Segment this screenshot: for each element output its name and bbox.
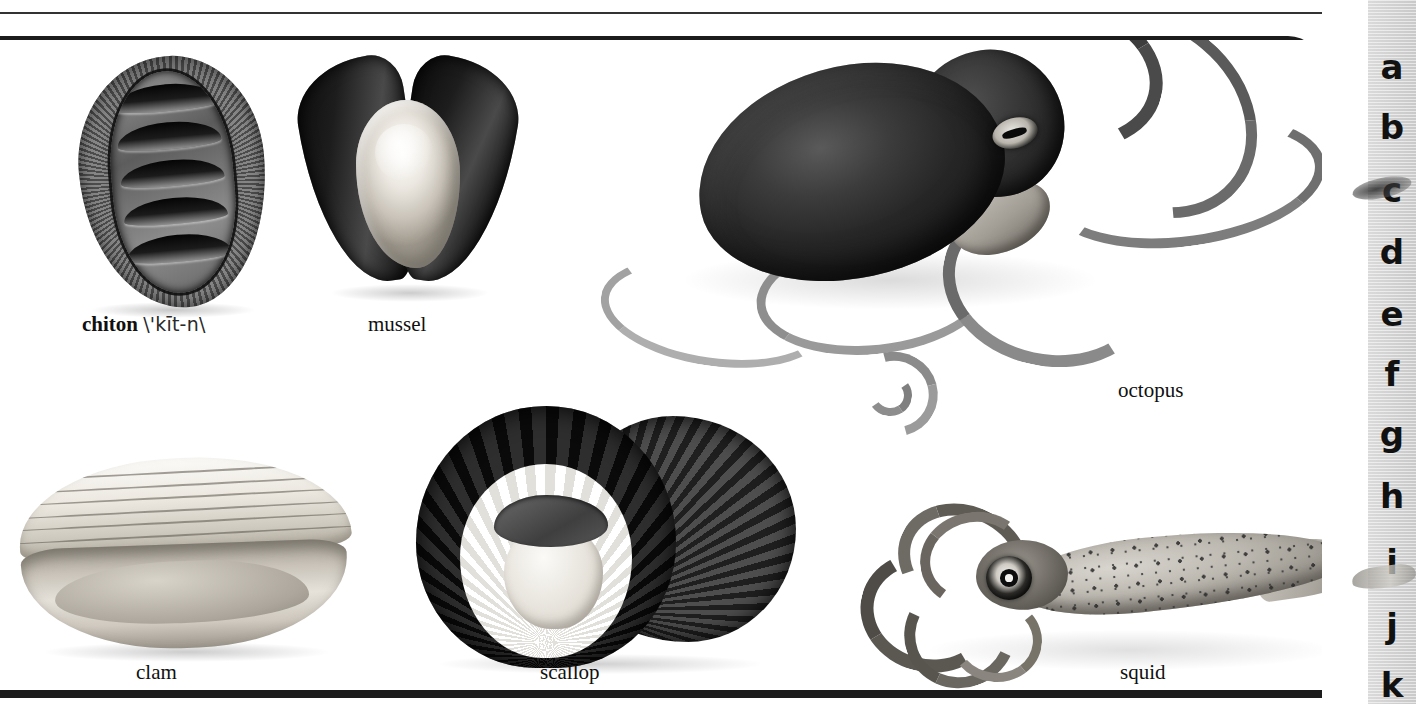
figure-octopus (560, 40, 1322, 452)
figure-squid (800, 510, 1322, 690)
clam-body-meat (53, 556, 309, 627)
clam-lower-valve (20, 538, 349, 653)
octopus-arm-curl (865, 370, 916, 419)
chiton-valve (126, 231, 231, 266)
scallop-lower-valve (416, 406, 676, 668)
bottom-thick-rule (0, 690, 1322, 698)
illustration-plate: chiton \'kīt-n\ mussel octopus (0, 40, 1322, 690)
thumb-index-letter-h[interactable]: h (1368, 479, 1416, 513)
caption-octopus: octopus (1118, 378, 1183, 403)
dictionary-illustration-page: chiton \'kīt-n\ mussel octopus (0, 0, 1416, 704)
figure-chiton (66, 52, 282, 314)
chiton-valve (123, 193, 228, 228)
thumb-index-letter-g[interactable]: g (1368, 417, 1416, 451)
figure-mussel (300, 58, 520, 318)
chiton-valve (120, 155, 225, 190)
caption-scallop: scallop (540, 660, 599, 685)
caption-clam: clam (136, 660, 177, 685)
thumb-index-letter-e[interactable]: e (1368, 297, 1416, 331)
caption-chiton-pronunciation: \'kīt-n\ (143, 313, 205, 335)
chiton-valve (116, 118, 221, 153)
top-thin-rule (0, 12, 1322, 14)
caption-chiton-headword: chiton (82, 312, 138, 336)
caption-squid: squid (1120, 660, 1166, 685)
octopus-arm-curl (837, 336, 953, 452)
octopus-arm (1038, 99, 1322, 265)
chiton-illustration (69, 48, 276, 315)
thumb-index-letter-b[interactable]: b (1368, 110, 1416, 144)
caption-chiton: chiton \'kīt-n\ (82, 312, 206, 337)
thumb-index-letter-a[interactable]: a (1368, 50, 1416, 84)
squid-eye (986, 556, 1032, 600)
thumb-index-letter-f[interactable]: f (1368, 357, 1416, 391)
thumb-index-letter-k[interactable]: k (1368, 668, 1416, 702)
thumb-index-letter-d[interactable]: d (1368, 235, 1416, 269)
thumb-index-sidebar[interactable]: a b c d e f g h i j k (1368, 0, 1416, 704)
mussel-shadow (330, 284, 490, 302)
caption-mussel: mussel (368, 312, 426, 337)
figure-scallop (410, 406, 800, 678)
figure-clam (18, 440, 358, 660)
thumb-index-letter-j[interactable]: j (1368, 609, 1416, 643)
